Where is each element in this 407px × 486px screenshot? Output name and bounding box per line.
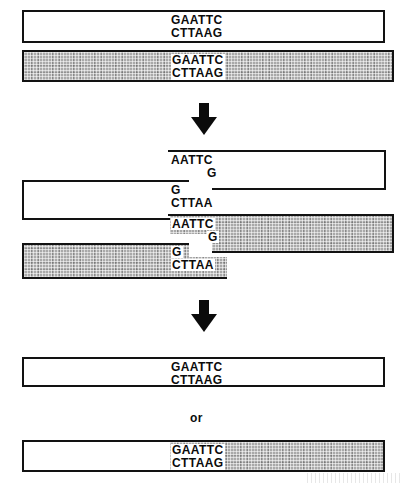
bottom-strand-line <box>212 251 394 253</box>
fragment-body <box>24 245 189 277</box>
restriction-enzyme-figure: GAATTC CTTAAG GAATTC CTTAAG AATTC G <box>0 0 407 486</box>
left-end-cap <box>22 180 24 220</box>
sequence-shaded-intact-bottom: CTTAAG <box>171 67 225 80</box>
sequence-white-right-bottom: G <box>207 167 217 179</box>
recombinant-white-half <box>24 442 170 470</box>
sequence-white-left-bottom: CTTAA <box>171 197 213 209</box>
left-end-cap <box>22 243 24 279</box>
arrow-head <box>191 117 217 135</box>
top-strand-line <box>168 214 394 216</box>
arrow-ligate-icon <box>191 300 217 332</box>
sequence-product-recombinant-top: GAATTC <box>171 444 225 457</box>
arrow-digest-icon <box>191 103 217 135</box>
scan-speckle <box>307 473 403 483</box>
sequence-white-right-top: AATTC <box>171 154 213 166</box>
right-end-cap <box>384 150 386 190</box>
fragment-body <box>24 182 189 218</box>
top-strand-line <box>22 180 189 182</box>
right-end-cap <box>392 214 394 253</box>
arrow-head <box>191 314 217 332</box>
alternative-label: or <box>190 411 203 425</box>
sequence-product-original-top: GAATTC <box>171 361 223 374</box>
sequence-shaded-left-bottom: CTTAA <box>171 259 215 271</box>
sequence-product-original-bottom: CTTAAG <box>171 374 223 387</box>
sequence-white-intact-bottom: CTTAAG <box>171 27 223 40</box>
sequence-shaded-right-bottom: G <box>207 231 219 243</box>
sequence-product-recombinant-bottom: CTTAAG <box>171 457 225 470</box>
sequence-shaded-intact-top: GAATTC <box>171 54 225 67</box>
top-strand-line <box>22 243 189 245</box>
sequence-shaded-right-top: AATTC <box>171 218 215 230</box>
sequence-white-intact-top: GAATTC <box>171 14 223 27</box>
sequence-white-left-top: G <box>171 184 181 196</box>
bottom-strand-line <box>212 188 386 190</box>
sequence-shaded-left-top: G <box>171 246 183 258</box>
top-strand-line <box>168 150 386 152</box>
bottom-strand-line <box>22 277 227 279</box>
